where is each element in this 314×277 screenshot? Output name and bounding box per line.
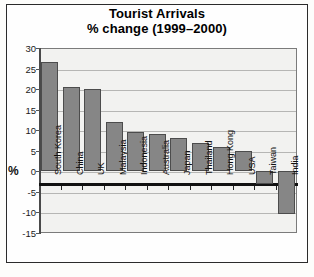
x-axis-tick-mark xyxy=(276,186,277,190)
gridline xyxy=(40,70,296,71)
x-axis-tick-mark xyxy=(168,186,169,190)
bar xyxy=(84,89,101,171)
chart-figure: Tourist Arrivals % change (1999–2000) 30… xyxy=(0,0,314,277)
y-axis-tick-mark xyxy=(36,130,40,131)
y-axis-tick-label: -5 xyxy=(2,186,36,197)
x-axis-tick-mark xyxy=(104,186,105,190)
gridline xyxy=(40,213,296,214)
x-axis-tick-mark xyxy=(82,186,83,190)
y-axis-tick-mark xyxy=(36,212,40,213)
x-axis-tick-mark xyxy=(61,186,62,190)
chart-title: Tourist Arrivals xyxy=(6,7,308,22)
x-axis-tick-mark xyxy=(211,186,212,190)
y-axis-tick-mark xyxy=(36,151,40,152)
y-axis-tick-labels: 302520151050-5-10-15 xyxy=(0,0,36,277)
bar xyxy=(278,171,295,214)
y-axis-tick-label: 30 xyxy=(2,43,36,54)
x-axis-tick-mark xyxy=(254,186,255,190)
y-axis-tick-label: -15 xyxy=(2,228,36,239)
y-axis-tick-mark xyxy=(36,192,40,193)
chart-title-block: Tourist Arrivals % change (1999–2000) xyxy=(6,7,308,36)
chart-subtitle: % change (1999–2000) xyxy=(6,22,308,37)
y-axis-tick-mark xyxy=(36,110,40,111)
y-axis-tick-mark xyxy=(36,48,40,49)
x-axis-category-label: India xyxy=(290,156,300,176)
x-axis-tick-mark xyxy=(190,186,191,190)
y-axis-tick-label: 5 xyxy=(2,145,36,156)
y-axis-tick-mark xyxy=(36,69,40,70)
y-axis-tick-label: 20 xyxy=(2,84,36,95)
x-axis-tick-mark xyxy=(233,186,234,190)
y-axis-label: % xyxy=(8,164,19,178)
x-axis-tick-mark xyxy=(147,186,148,190)
y-axis-tick-label: 25 xyxy=(2,63,36,74)
y-axis-tick-label: 15 xyxy=(2,104,36,115)
x-axis-tick-mark xyxy=(125,186,126,190)
y-axis-tick-mark xyxy=(36,171,40,172)
y-axis-tick-mark xyxy=(36,89,40,90)
gridline xyxy=(40,193,296,194)
y-axis-tick-mark xyxy=(36,233,40,234)
y-axis-tick-label: 10 xyxy=(2,125,36,136)
y-axis-tick-label: -10 xyxy=(2,207,36,218)
